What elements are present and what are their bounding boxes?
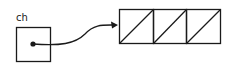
arrowhead-icon [111,22,118,29]
array [120,10,221,44]
variable-label: ch [16,12,28,23]
null-slash-icon [154,10,187,44]
null-slash-icon [187,10,221,44]
null-slash-icon [120,10,154,44]
pointer-array-diagram: ch [0,0,236,66]
